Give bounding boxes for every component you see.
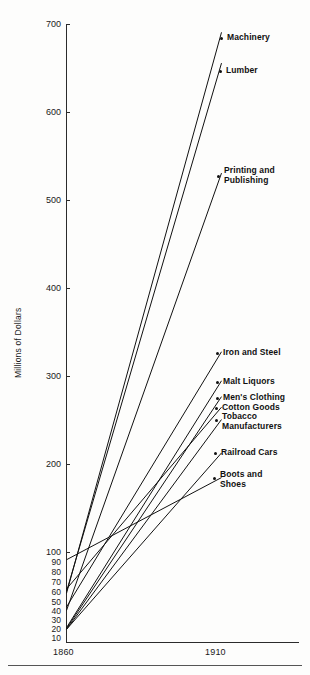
series-line (67, 478, 222, 560)
series-line (67, 420, 222, 630)
series-label-boots-and-shoes: Boots and Shoes (220, 470, 262, 489)
series-label-iron-and-steel: Iron and Steel (223, 348, 281, 358)
series-lines (0, 0, 310, 675)
series-endpoint-railroad-cars (214, 452, 217, 455)
chart-canvas: Millions of Dollars 700 600 500 400 300 … (0, 0, 310, 675)
series-label-railroad-cars: Railroad Cars (221, 448, 278, 458)
series-endpoint-machinery (220, 37, 223, 40)
series-label-machinery: Machinery (227, 33, 270, 43)
series-endpoint-malt-liquors (216, 381, 219, 384)
series-line (67, 407, 222, 589)
series-label-printing: Printing and Publishing (224, 166, 275, 185)
series-endpoint-mens-clothing (216, 397, 219, 400)
series-endpoint-iron-and-steel (216, 352, 219, 355)
series-label-tobacco: Tobacco Manufacturers (222, 412, 282, 431)
series-endpoint-tobacco (215, 419, 218, 422)
series-endpoint-lumber (219, 70, 222, 73)
series-label-lumber: Lumber (226, 66, 258, 76)
series-line (67, 173, 222, 610)
series-line (67, 32, 222, 593)
series-label-malt-liquors: Malt Liquors (223, 377, 275, 387)
series-endpoint-cotton-goods (215, 407, 218, 410)
series-endpoint-boots-and-shoes (213, 477, 216, 480)
series-line (67, 381, 222, 628)
series-endpoint-printing (217, 175, 220, 178)
